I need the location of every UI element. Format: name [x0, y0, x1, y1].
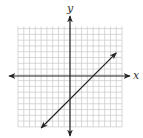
y-axis-label: y	[67, 3, 73, 14]
coordinate-plane	[0, 0, 143, 138]
x-axis-label: x	[133, 70, 139, 81]
